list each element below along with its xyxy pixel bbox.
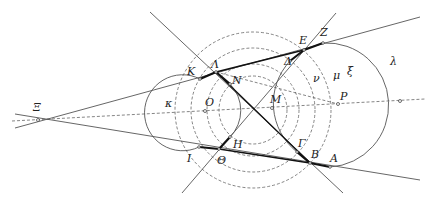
label-delta: Δ	[283, 55, 292, 68]
label-lambda: Λ	[210, 58, 219, 71]
point-lambda-right	[399, 100, 402, 103]
axis-line-xi-p	[12, 99, 425, 121]
label-h: H	[232, 138, 243, 151]
label-p: P	[339, 90, 348, 103]
label-xi: Ξ	[32, 101, 41, 114]
label-circle-lambda: λ	[389, 55, 397, 68]
point-z	[322, 42, 325, 45]
label-i: I	[186, 152, 192, 165]
point-n	[229, 83, 232, 86]
geometry-diagram: Ξ O M P K Λ N E Z Δ H Θ I Γ B A κ λ ν μ …	[0, 0, 434, 204]
label-circle-nu: ν	[313, 72, 320, 85]
label-theta: Θ	[217, 154, 226, 167]
circle-lambda	[323, 43, 389, 167]
point-a	[329, 166, 332, 169]
label-n: N	[231, 74, 242, 87]
label-b: B	[310, 148, 319, 161]
point-o	[204, 110, 207, 113]
label-m: M	[269, 93, 282, 106]
label-o: O	[205, 96, 214, 109]
point-e	[303, 49, 306, 52]
point-m	[271, 107, 274, 110]
label-circle-xi: ξ	[347, 65, 354, 78]
tangent-lower	[15, 114, 420, 180]
diagram-svg: Ξ O M P K Λ N E Z Δ H Θ I Γ B A κ λ ν μ …	[0, 0, 434, 204]
point-h	[229, 136, 232, 139]
segment-k-lambda	[200, 72, 216, 79]
label-circle-mu: μ	[333, 69, 340, 82]
point-gamma	[296, 151, 299, 154]
segment-i-theta	[199, 147, 219, 149]
point-xi	[37, 119, 40, 122]
point-i	[198, 146, 201, 149]
label-a: A	[329, 152, 338, 165]
label-z: Z	[319, 26, 328, 39]
label-circle-kappa: κ	[164, 97, 173, 110]
point-b	[309, 162, 312, 165]
label-e: E	[298, 34, 307, 47]
point-theta	[218, 148, 221, 151]
point-k	[199, 78, 202, 81]
label-gamma: Γ	[297, 137, 306, 150]
point-lambda	[215, 71, 218, 74]
label-k: K	[186, 65, 196, 78]
